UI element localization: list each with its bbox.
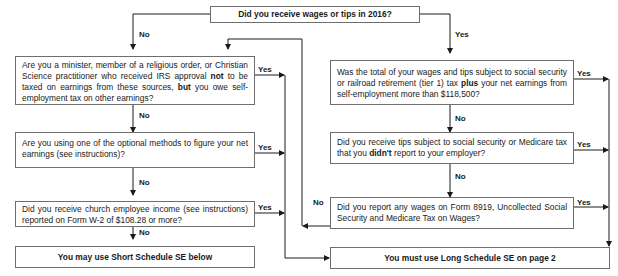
question-box-church-income: Did you receive church employee income (… bbox=[15, 201, 255, 227]
result-short-schedule-text: You may use Short Schedule SE below bbox=[58, 252, 212, 263]
start-yes-connector bbox=[420, 14, 450, 53]
result-long-schedule-text: You must use Long Schedule SE on page 2 bbox=[384, 253, 556, 264]
start-question-text: Did you receive wages or tips in 2016? bbox=[238, 9, 392, 20]
result-short-schedule-box: You may use Short Schedule SE below bbox=[15, 246, 255, 268]
question-box-optional-methods: Are you using one of the optional method… bbox=[15, 132, 255, 168]
church-yes-label: Yes bbox=[258, 203, 272, 212]
emphasis-text: plus bbox=[461, 78, 478, 88]
minister-yes-label: Yes bbox=[258, 65, 272, 74]
question-box-form-8919: Did you report any wages on Form 8919, U… bbox=[330, 197, 574, 229]
question-box-total-wages: Was the total of your wages and tips sub… bbox=[330, 60, 574, 105]
church-no-label: No bbox=[139, 228, 150, 237]
minister-no-label: No bbox=[139, 111, 150, 120]
start-yes-label: Yes bbox=[455, 30, 469, 39]
optional-no-label: No bbox=[139, 178, 150, 187]
start-no-label: No bbox=[139, 30, 150, 39]
tips-no-label: No bbox=[455, 172, 466, 181]
optional-yes-label: Yes bbox=[258, 143, 272, 152]
tips-yes-label: Yes bbox=[577, 140, 591, 149]
form8919-no-label: No bbox=[313, 198, 324, 207]
result-long-schedule-box: You must use Long Schedule SE on page 2 bbox=[330, 247, 610, 269]
emphasis-text: but bbox=[178, 82, 191, 92]
question-text: Did you receive church employee income (… bbox=[22, 204, 248, 225]
start-question-box: Did you receive wages or tips in 2016? bbox=[210, 6, 420, 23]
question-text: report to your employer? bbox=[392, 148, 486, 158]
form8919-yes-label: Yes bbox=[577, 198, 591, 207]
question-text: Did you report any wages on Form 8919, U… bbox=[337, 202, 567, 223]
question-box-unreported-tips: Did you receive tips subject to social s… bbox=[330, 132, 574, 164]
question-box-minister: Are you a minister, member of a religiou… bbox=[15, 56, 255, 105]
emphasis-text: didn't bbox=[369, 148, 391, 158]
emphasis-text: not bbox=[211, 71, 224, 81]
total-wages-no-label: No bbox=[455, 114, 466, 123]
question-text: Are you using one of the optional method… bbox=[22, 138, 248, 159]
total-wages-yes-label: Yes bbox=[577, 69, 591, 78]
